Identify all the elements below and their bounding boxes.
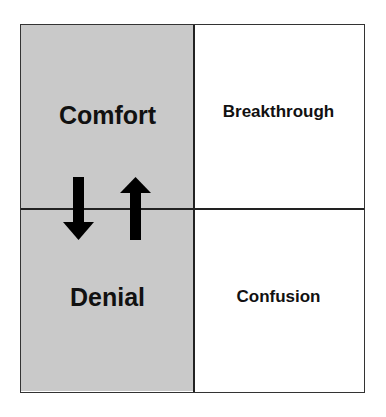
quadrant-label-comfort: Comfort	[59, 101, 156, 130]
quadrant-label-denial: Denial	[70, 283, 145, 312]
quadrant-label-breakthrough: Breakthrough	[223, 102, 334, 122]
quadrant-label-confusion: Confusion	[236, 287, 320, 307]
quadrant-denial: Denial	[21, 209, 194, 391]
horizontal-divider	[21, 208, 364, 210]
quadrant-comfort: Comfort	[21, 25, 194, 209]
quadrant-breakthrough: Breakthrough	[194, 25, 363, 209]
quadrant-confusion: Confusion	[194, 209, 363, 391]
quadrant-grid: Comfort Breakthrough Denial Confusion	[20, 24, 365, 393]
